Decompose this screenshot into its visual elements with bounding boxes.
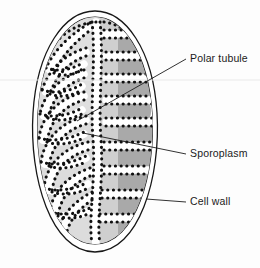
sporoplasm-label: Sporoplasm xyxy=(190,147,248,159)
spore-diagram: Polar tubule Sporoplasm Cell wall xyxy=(0,0,260,268)
cell-wall-label: Cell wall xyxy=(190,195,230,207)
polar-tubule-label: Polar tubule xyxy=(190,52,248,64)
